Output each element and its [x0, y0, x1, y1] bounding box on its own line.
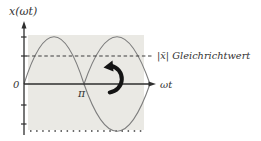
- diagram-canvas: x(ωt) 0 π ωt |x̄| Gleichrichtwert: [0, 0, 261, 141]
- mean-value-label: |x̄| Gleichrichtwert: [157, 50, 250, 62]
- y-axis-label: x(ωt): [9, 5, 37, 18]
- plot-area-background: [28, 35, 144, 130]
- y-axis-arrow-icon: [22, 21, 27, 29]
- x-axis-label: ωt: [160, 79, 173, 90]
- origin-label: 0: [13, 79, 20, 90]
- pi-tick-label: π: [77, 87, 86, 100]
- x-axis-arrow-icon: [149, 82, 157, 87]
- rectified-sine-diagram: x(ωt) 0 π ωt |x̄| Gleichrichtwert: [0, 0, 261, 141]
